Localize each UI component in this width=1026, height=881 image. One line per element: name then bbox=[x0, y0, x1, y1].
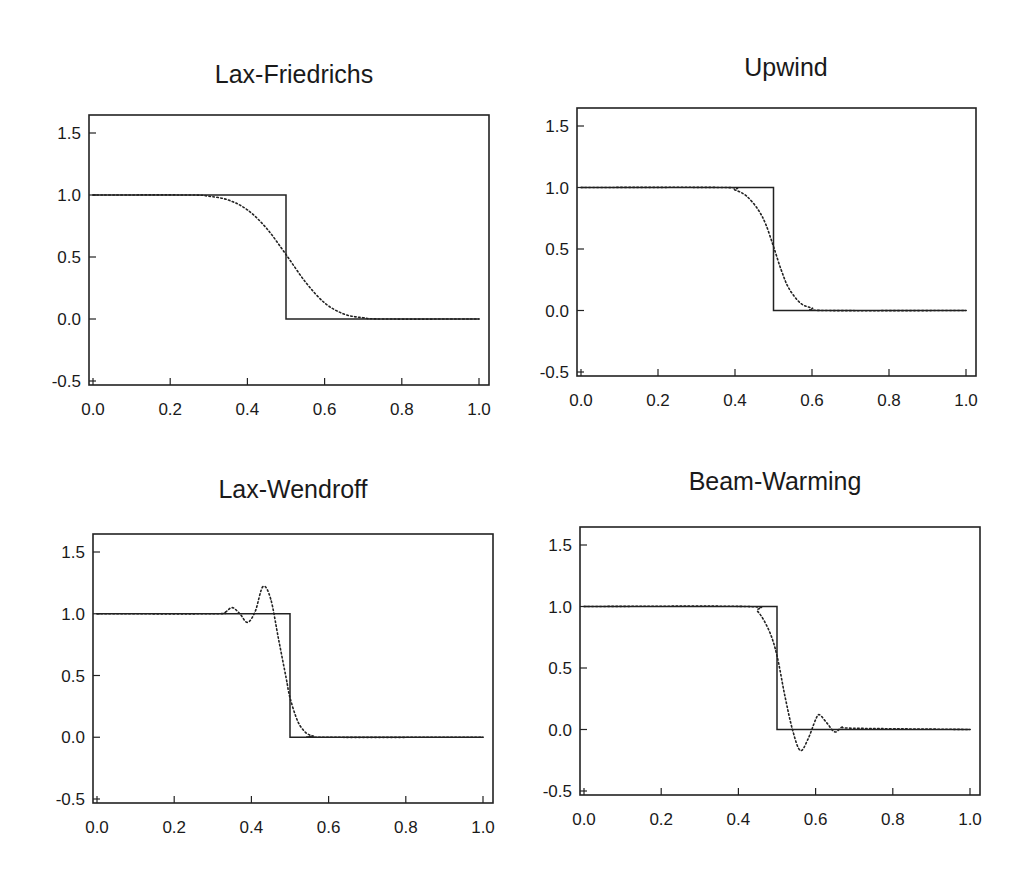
x-tick-label: 0.6 bbox=[804, 810, 828, 829]
x-tick-label: 1.0 bbox=[958, 810, 982, 829]
plot-frame bbox=[580, 527, 980, 795]
x-tick-label: 0.4 bbox=[727, 810, 751, 829]
y-tick-label: 0.0 bbox=[548, 721, 572, 740]
y-tick-label: 0.5 bbox=[548, 659, 572, 678]
y-tick-label: 1.0 bbox=[548, 598, 572, 617]
exact-solution-line bbox=[584, 607, 970, 730]
x-tick-label: 0.2 bbox=[649, 810, 673, 829]
x-tick-label: 0.0 bbox=[572, 810, 596, 829]
plot-beam-warming: -0.50.00.51.01.50.00.20.40.60.81.0 bbox=[0, 0, 1026, 881]
y-tick-label: -0.5 bbox=[543, 782, 572, 801]
y-tick-label: 1.5 bbox=[548, 536, 572, 555]
x-tick-label: 0.8 bbox=[881, 810, 905, 829]
